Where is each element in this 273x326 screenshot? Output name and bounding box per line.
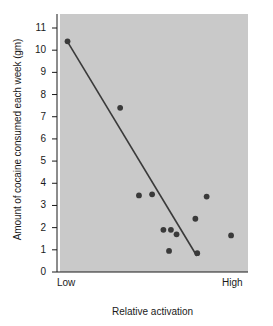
data-point (204, 194, 210, 200)
data-point (228, 233, 234, 239)
data-point (136, 193, 142, 199)
plot-background (60, 14, 248, 272)
data-point (161, 227, 167, 233)
data-point (65, 38, 71, 44)
data-point (192, 216, 198, 222)
data-point (149, 191, 155, 197)
data-point (168, 227, 174, 233)
data-point (117, 105, 123, 111)
scatter-plot-figure: Amount of cocaine consumed each week (gm… (0, 0, 273, 326)
plot-canvas (0, 0, 273, 326)
data-point (194, 250, 200, 256)
data-point (166, 248, 172, 254)
data-point (174, 231, 180, 237)
y-axis-ticks (52, 28, 57, 272)
